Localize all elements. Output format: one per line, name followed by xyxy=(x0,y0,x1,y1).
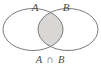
venn-diagram-figure: A B A ∩ B xyxy=(0,0,101,68)
venn-diagram-canvas: A B A ∩ B xyxy=(0,0,101,68)
caption-operator-icon: ∩ xyxy=(46,54,54,65)
caption-intersection: A ∩ B xyxy=(35,54,65,65)
set-a-label: A xyxy=(31,1,39,13)
caption-left-operand: A xyxy=(35,54,43,65)
caption-right-operand: B xyxy=(58,54,65,65)
set-b-label: B xyxy=(63,1,70,13)
